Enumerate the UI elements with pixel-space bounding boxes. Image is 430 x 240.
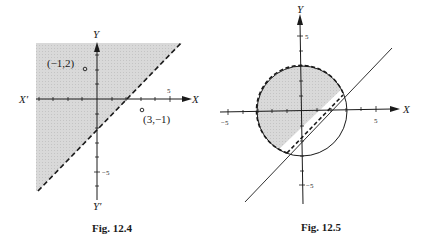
x-axis-arrow-icon (182, 96, 192, 102)
x-tick-5-label: 5 (167, 87, 171, 95)
y-tick-5-label: 5 (305, 33, 309, 41)
y-axis-label: Y (297, 3, 305, 15)
fig-12-4: Y X X′ Y′ 5 −5 (−1,2) (3,−1) Fig. 12.4 (18, 28, 200, 234)
figure-caption: Fig. 12.5 (301, 221, 342, 233)
x-tick-neg5-label: −5 (221, 119, 229, 127)
y-tick-neg5-label: −5 (306, 182, 314, 190)
point-marker (140, 108, 144, 112)
point-label: (−1,2) (47, 57, 75, 70)
fig-12-5: Y X 5 −5 5 −5 Fig. 12.5 (220, 3, 411, 233)
y-axis-label: Y (93, 28, 101, 40)
y-neg-axis-label: Y′ (93, 200, 102, 212)
y-tick-neg5-label: −5 (102, 169, 110, 177)
x-axis-label: X (402, 103, 411, 115)
x-axis-arrow-icon (390, 106, 400, 112)
y-axis-arrow-icon (297, 14, 303, 25)
x-neg-axis-label: X′ (18, 93, 29, 105)
figure-canvas: Y X X′ Y′ 5 −5 (−1,2) (3,−1) Fig. 12.4 (0, 0, 430, 240)
x-axis-label: X (191, 93, 200, 105)
figure-caption: Fig. 12.4 (92, 222, 133, 234)
x-tick-5-label: 5 (374, 117, 378, 125)
point-label: (3,−1) (143, 113, 171, 126)
